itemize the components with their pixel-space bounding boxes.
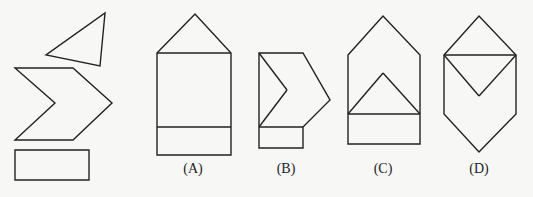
option-d-outline bbox=[444, 16, 516, 152]
option-d-label: (D) bbox=[459, 161, 499, 177]
option-c-figure bbox=[348, 16, 420, 144]
option-c-line bbox=[383, 73, 420, 114]
option-c-label: (C) bbox=[363, 161, 403, 177]
option-a-figure bbox=[157, 14, 231, 155]
option-d-line bbox=[444, 55, 479, 96]
option-c-outline bbox=[348, 16, 420, 144]
option-a-outline bbox=[157, 14, 231, 155]
option-d-figure bbox=[444, 16, 516, 152]
triangle-piece bbox=[46, 13, 105, 66]
option-a-label: (A) bbox=[173, 161, 213, 177]
option-d-line bbox=[479, 55, 516, 96]
option-c-line bbox=[348, 73, 383, 114]
given-pieces bbox=[15, 13, 112, 180]
puzzle-figure: (A) (B) (C) (D) bbox=[0, 0, 533, 197]
chevron-piece bbox=[15, 68, 112, 140]
option-b-label: (B) bbox=[266, 161, 306, 177]
rectangle-piece bbox=[15, 150, 89, 180]
option-b-line bbox=[259, 90, 287, 127]
option-b-line bbox=[259, 53, 287, 90]
option-b-figure bbox=[259, 53, 330, 148]
